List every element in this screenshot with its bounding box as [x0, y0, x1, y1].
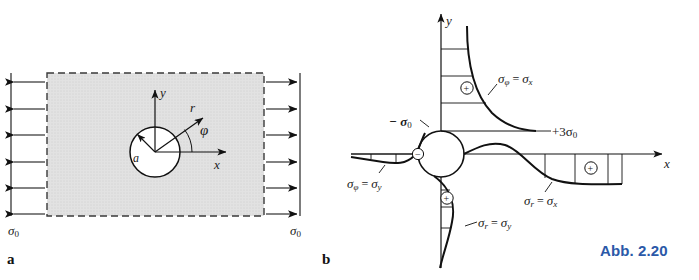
- val-3s-sub: 0: [573, 130, 578, 140]
- figure-container: y x a r φ σ0 σ0 a y x σφ = σx σφ = σy σr…: [0, 0, 699, 280]
- curve-sigma-phi-y: [351, 133, 425, 163]
- label-sigma-r-equals-sigma-y: σr = σy: [478, 214, 511, 231]
- panel-letter-b: b: [322, 252, 330, 267]
- lbl-b-sub2: y: [507, 221, 511, 231]
- label-sigma-phi-equals-sigma-x: σφ = σx: [498, 70, 533, 87]
- polar-angle-label-phi: φ: [200, 123, 208, 138]
- lbl-r-eq: =: [534, 194, 547, 208]
- axis-label-y-b: y: [446, 14, 452, 27]
- axis-label-x-b: x: [664, 157, 670, 170]
- figure-canvas: [0, 0, 699, 280]
- load-arrows-left: [14, 82, 45, 214]
- panel-letter-a: a: [7, 252, 15, 267]
- lbl-l-sub2: y: [378, 182, 382, 192]
- minus-marker-left: −: [415, 150, 421, 160]
- label-sigma-r-equals-sigma-x: σr = σx: [524, 192, 557, 209]
- plus-marker-bottom: +: [444, 194, 450, 204]
- load-arrows-right: [266, 82, 297, 214]
- load-label-left: σ0: [8, 222, 19, 239]
- value-label-minus-sigma0: − σ0: [389, 113, 412, 130]
- load-label-right-sub: 0: [296, 229, 301, 239]
- plus-marker-right: +: [588, 164, 594, 174]
- axis-label-y-a: y: [160, 86, 166, 99]
- val-ms-sub: 0: [407, 120, 412, 130]
- load-label-left-sub: 0: [14, 229, 19, 239]
- hole-circle-b: [418, 131, 464, 177]
- label-sigma-phi-equals-sigma-y: σφ = σy: [347, 175, 382, 192]
- curve-sigma-r-x: [464, 144, 622, 185]
- axis-label-x-a: x: [214, 158, 220, 171]
- lbl-tr-eq: =: [509, 72, 522, 86]
- val-3s-base: +3σ: [552, 124, 573, 139]
- figure-caption: Abb. 2.20: [600, 243, 668, 258]
- lbl-r-sub2: x: [553, 199, 557, 209]
- lbl-tr-sub2: x: [529, 77, 533, 87]
- panel-a-group: [11, 73, 300, 216]
- lbl-b-eq: =: [488, 216, 501, 230]
- polar-radius-label-r: r: [190, 101, 195, 114]
- lbl-l-eq: =: [358, 177, 371, 191]
- val-ms-base: − σ: [389, 114, 407, 129]
- plus-marker-top: +: [464, 84, 470, 94]
- radius-label-a: a: [133, 152, 139, 164]
- load-label-right: σ0: [290, 222, 301, 239]
- value-label-plus-3-sigma0: +3σ0: [552, 123, 577, 140]
